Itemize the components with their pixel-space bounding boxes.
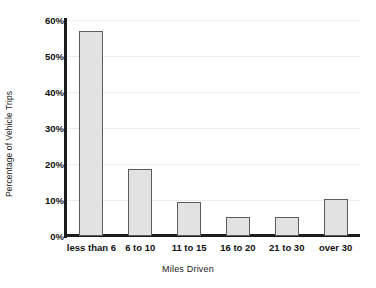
- bar-slot: [214, 20, 263, 236]
- x-tick-label: 16 to 20: [220, 242, 255, 253]
- x-tick-label: over 30: [319, 242, 352, 253]
- y-tick-label: 20%: [4, 159, 64, 170]
- bar[interactable]: [226, 217, 250, 236]
- x-tick-label: 6 to 10: [125, 242, 155, 253]
- bar-slot: [262, 20, 311, 236]
- y-tick-label: 40%: [4, 87, 64, 98]
- x-tick-label: 11 to 15: [172, 242, 207, 253]
- bars-group: [67, 20, 360, 236]
- y-tick-label: 30%: [4, 123, 64, 134]
- bar[interactable]: [128, 169, 152, 236]
- bar-chart-figure: Percentage of Vehicle Trips 0%10%20%30%4…: [0, 0, 376, 288]
- bar[interactable]: [79, 31, 103, 236]
- x-tick-label: less than 6: [67, 242, 116, 253]
- y-tick-label: 60%: [4, 15, 64, 26]
- y-tick-label: 0%: [4, 231, 64, 242]
- y-axis-title: Percentage of Vehicle Trips: [0, 0, 18, 288]
- bar-slot: [165, 20, 214, 236]
- bar-slot: [116, 20, 165, 236]
- bar-slot: [311, 20, 360, 236]
- y-tick-label: 10%: [4, 195, 64, 206]
- bar-slot: [67, 20, 116, 236]
- y-tick-label: 50%: [4, 51, 64, 62]
- bar[interactable]: [324, 199, 348, 236]
- bar[interactable]: [177, 202, 201, 236]
- x-tick-label: 21 to 30: [269, 242, 304, 253]
- bar[interactable]: [275, 217, 299, 236]
- x-axis-title: Miles Driven: [0, 264, 376, 274]
